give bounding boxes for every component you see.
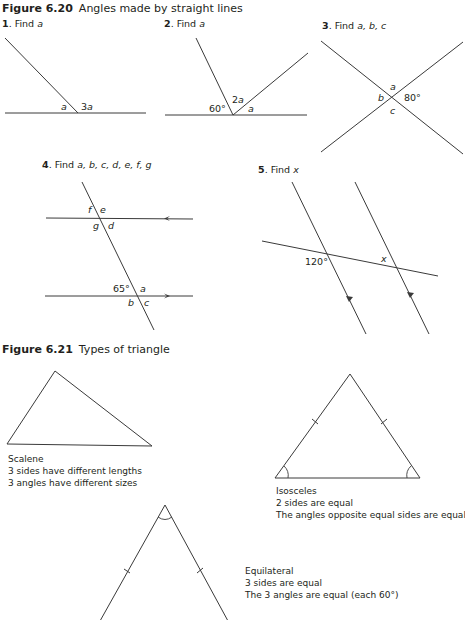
angle-label-60: 60° — [209, 103, 226, 114]
isosceles-name: Isosceles — [276, 486, 317, 496]
angle-label-b: b — [128, 297, 134, 308]
angle-label-80: 80° — [404, 92, 421, 103]
problem-4-heading: 4. Find a, b, c, d, e, f, g — [42, 159, 152, 170]
scalene-line-2: 3 angles have different sizes — [8, 478, 138, 488]
angle-label-d: d — [108, 220, 115, 231]
angle-label-a: a — [140, 283, 146, 294]
isosceles-line-1: 2 sides are equal — [276, 498, 353, 508]
problem-2-heading: 2. Find a — [164, 18, 205, 29]
equilateral-line-2: The 3 angles are equal (each 60°) — [244, 590, 399, 600]
angle-label-2a: 2a — [232, 94, 244, 105]
parallel-arrow-icon — [407, 292, 414, 298]
angle-label-b: b — [378, 92, 384, 103]
angle-label-c: c — [390, 105, 396, 116]
angle-label-a: a — [61, 101, 67, 112]
scalene-name: Scalene — [8, 454, 44, 464]
figure-621-title: Figure 6.21Types of triangle — [2, 343, 170, 356]
parallel-line-top — [46, 218, 193, 219]
equilateral-name: Equilateral — [245, 566, 293, 576]
angle-arc-icon — [158, 517, 172, 520]
equilateral-right-side — [165, 505, 228, 620]
angle-label-e: e — [100, 204, 106, 215]
figure-620-title: Figure 6.20Angles made by straight lines — [2, 2, 243, 15]
equilateral-triangle: Equilateral 3 sides are equal The 3 angl… — [100, 505, 399, 620]
equilateral-left-side — [100, 505, 165, 620]
problem-3-heading: 3. Find a, b, c — [322, 20, 387, 31]
problem-1-heading: 1. Find a — [2, 18, 43, 29]
scalene-shape — [7, 371, 152, 446]
equilateral-line-1: 3 sides are equal — [245, 578, 322, 588]
problem-3: 3. Find a, b, c a b 80° c — [321, 20, 463, 154]
equal-angle-arc-icon — [407, 466, 411, 478]
transversal-line — [262, 241, 438, 276]
angle-label-x: x — [380, 253, 387, 264]
angle-label-a: a — [248, 103, 254, 114]
angle-label-g: g — [93, 220, 99, 231]
angle-label-a: a — [390, 81, 396, 92]
angle-label-f: f — [88, 204, 93, 215]
isosceles-line-2: The angles opposite equal sides are equa… — [275, 510, 465, 520]
parallel-arrow-icon — [346, 296, 353, 302]
diagram-canvas: Figure 6.20Angles made by straight lines… — [0, 0, 465, 620]
problem-5-heading: 5. Find x — [258, 164, 299, 175]
parallel-line-left — [292, 182, 366, 334]
problem-5: 5. Find x 120° x — [258, 164, 438, 334]
parallel-line-right — [355, 182, 429, 334]
equal-angle-arc-icon — [284, 466, 288, 478]
slanted-line — [5, 38, 78, 113]
angle-label-3a: 3a — [81, 101, 93, 112]
isosceles-triangle: Isosceles 2 sides are equal The angles o… — [275, 374, 465, 520]
scalene-triangle: Scalene 3 sides have different lengths 3… — [7, 371, 152, 488]
problem-4: 4. Find a, b, c, d, e, f, g f e g d 65° … — [42, 159, 193, 330]
isosceles-shape — [275, 374, 420, 478]
problem-2: 2. Find a 60° 2a a — [164, 18, 308, 115]
angle-label-120: 120° — [305, 256, 328, 267]
angle-label-c: c — [144, 297, 150, 308]
angle-label-65: 65° — [113, 283, 130, 294]
scalene-line-1: 3 sides have different lengths — [8, 466, 142, 476]
problem-1: 1. Find a a 3a — [2, 18, 146, 113]
right-ray — [233, 53, 308, 115]
